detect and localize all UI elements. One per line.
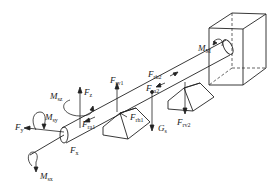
label-F-x: Fx xyxy=(70,146,79,156)
label-M-sx: Msx xyxy=(40,172,53,182)
moment-arrows xyxy=(28,39,222,172)
shaft-diagram xyxy=(0,0,278,192)
label-M-sz: Msz xyxy=(50,92,63,102)
label-F-rv2: Frv2 xyxy=(177,118,191,128)
label-G-s: Gs xyxy=(158,124,167,134)
label-F-rh1: Frh1 xyxy=(130,113,144,123)
label-F-rh2: Frh2 xyxy=(148,70,162,80)
label-M-sy: Msy xyxy=(45,113,58,123)
label-F-ra2: Fra2 xyxy=(146,84,159,94)
label-M-M: MM xyxy=(198,44,211,54)
label-F-z: Fz xyxy=(84,88,92,98)
bearing-2 xyxy=(168,83,214,111)
label-F-rv1: Frv1 xyxy=(110,76,124,86)
label-F-ra1: Fra1 xyxy=(82,120,95,130)
motor-box xyxy=(209,13,266,85)
label-F-y: Fy xyxy=(15,123,24,133)
